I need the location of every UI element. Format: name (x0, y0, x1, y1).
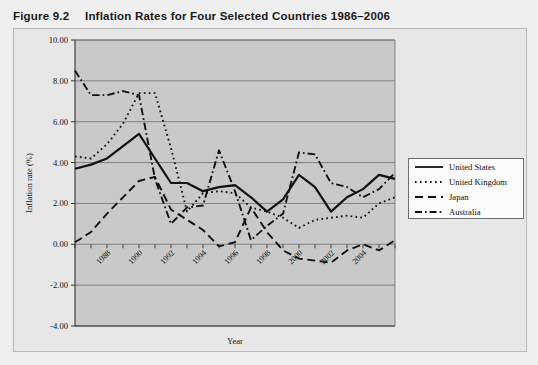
y-axis-title: Inflation rate (%) (24, 153, 34, 213)
y-tick-label: 0.00 (53, 239, 68, 249)
y-tick-label: 8.00 (53, 76, 68, 86)
figure-container: Figure 9.2Inflation Rates for Four Selec… (0, 0, 538, 365)
legend-item-australia[interactable]: Australia (414, 204, 523, 219)
legend-key-dashed (414, 192, 444, 202)
legend-label-united-kingdom: United Kingdom (449, 177, 507, 187)
legend-key-dotted (414, 177, 444, 187)
legend-key-solid (414, 162, 444, 172)
y-tick-label: 10.00 (49, 35, 68, 45)
legend-item-united-kingdom[interactable]: United Kingdom (414, 174, 523, 189)
y-tick-label: 2.00 (53, 198, 68, 208)
chart-legend: United States United Kingdom Japan Austr… (408, 158, 524, 219)
legend-item-united-states[interactable]: United States (414, 159, 523, 174)
legend-label-united-states: United States (449, 162, 495, 172)
y-tick-label: 4.00 (53, 158, 68, 168)
legend-item-japan[interactable]: Japan (414, 189, 523, 204)
legend-label-japan: Japan (449, 192, 469, 202)
x-axis-title: Year (227, 336, 243, 346)
y-tick-label: -4.00 (50, 321, 68, 331)
y-tick-label: -2.00 (50, 280, 68, 290)
legend-label-australia: Australia (449, 207, 481, 217)
plot-background (75, 40, 395, 326)
y-tick-label: 6.00 (53, 117, 68, 127)
legend-key-dashdot (414, 207, 444, 217)
